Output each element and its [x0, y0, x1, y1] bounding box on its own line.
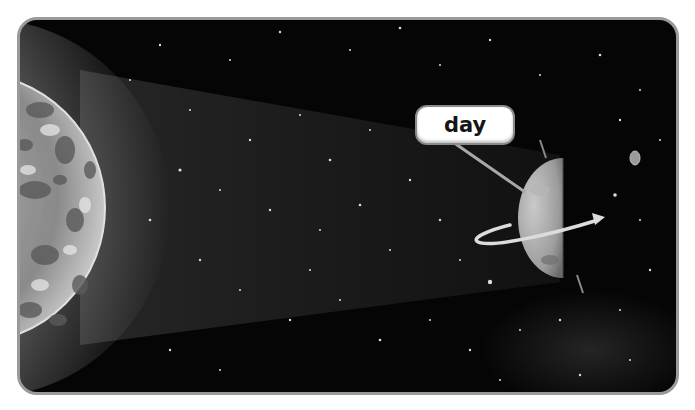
moon-icon [630, 151, 640, 165]
space-scene [20, 20, 676, 392]
illustration-frame: day [17, 17, 679, 395]
nebula-haze [480, 290, 676, 392]
day-label-text: day [444, 113, 486, 137]
day-label: day [415, 105, 515, 145]
